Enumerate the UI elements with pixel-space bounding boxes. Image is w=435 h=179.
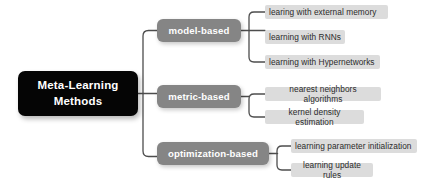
branch-node-metric-based[interactable]: metric-based — [157, 85, 241, 108]
branch-node-model-based[interactable]: model-based — [157, 19, 241, 42]
branch-node-label: optimization-based — [168, 148, 258, 159]
branch-node-label: model-based — [169, 25, 230, 36]
leaf-node-label: nearest neighbors algorithms — [269, 84, 377, 104]
connector-optim-bracket — [277, 146, 291, 170]
branch-node-optimization-based[interactable]: optimization-based — [157, 142, 269, 165]
connector-root-bracket — [143, 31, 157, 157]
branch-node-label: metric-based — [168, 91, 230, 102]
mind-map-diagram: Meta-LearningMethods model-based learing… — [0, 0, 435, 179]
leaf-node-learning-parameter-initialization[interactable]: learning parameter initialization — [291, 139, 417, 153]
root-node-meta-learning-methods[interactable]: Meta-LearningMethods — [18, 71, 138, 116]
leaf-node-label: learning parameter initialization — [295, 141, 412, 151]
leaf-node-label: kernel density estimation — [269, 107, 360, 127]
leaf-node-learning-with-rnns[interactable]: learning with RNNs — [265, 30, 345, 44]
leaf-node-nearest-neighbors-algorithms[interactable]: nearest neighbors algorithms — [265, 87, 381, 101]
leaf-node-learning-update-rules[interactable]: learning update rules — [291, 163, 373, 177]
root-node-label: Meta-LearningMethods — [37, 78, 118, 108]
leaf-node-label: learing with external memory — [269, 7, 376, 17]
leaf-node-label: learning update rules — [295, 160, 369, 179]
leaf-node-kernel-density-estimation[interactable]: kernel density estimation — [265, 110, 364, 124]
leaf-node-label: learning with RNNs — [269, 32, 341, 42]
leaf-node-learning-with-external-memory[interactable]: learing with external memory — [265, 5, 388, 19]
leaf-node-label: learning with Hypernetworks — [269, 57, 375, 67]
connector-metric-bracket — [249, 94, 265, 117]
connector-model-bracket — [249, 12, 265, 62]
leaf-node-learning-with-hypernetworks[interactable]: learning with Hypernetworks — [265, 55, 380, 69]
